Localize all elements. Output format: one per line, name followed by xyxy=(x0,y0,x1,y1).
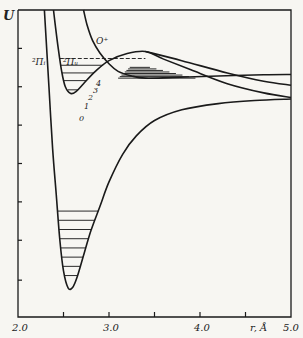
potential-energy-chart: U r, Å 2.0 3.0 4.0 5.0 ²Πᵢ ²Πᵤ O⁺ 0 1 2 … xyxy=(0,0,303,338)
curve-label-o-plus: O⁺ xyxy=(96,36,108,46)
vibrational-levels xyxy=(58,59,146,276)
x-tick-label-5: 5.0 xyxy=(283,322,300,333)
level-label-1: 1 xyxy=(84,102,89,111)
axis-ticks xyxy=(18,48,246,317)
curve-2pi-u xyxy=(53,10,291,97)
x-tick-label-4: 4.0 xyxy=(193,322,211,333)
x-axis-label: r, Å xyxy=(250,322,267,333)
curve-label-2pi-i: ²Πᵢ xyxy=(32,57,45,67)
curve-label-2pi-u: ²Πᵤ xyxy=(63,57,78,67)
level-label-0: 0 xyxy=(79,114,84,123)
y-axis-label: U xyxy=(3,8,15,23)
x-tick-label-3: 3.0 xyxy=(103,322,120,333)
level-label-4: 4 xyxy=(95,79,101,88)
x-tick-label-2: 2.0 xyxy=(11,322,29,333)
